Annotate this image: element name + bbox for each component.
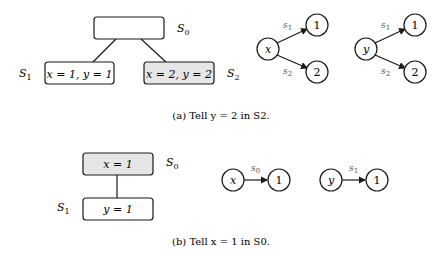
node-2-label: 2	[314, 66, 321, 79]
edge-label-s1: s1	[349, 163, 358, 175]
figure-a-graph-x: x 1 2 s1 s2	[257, 14, 328, 83]
space-label-s1: S1	[57, 201, 70, 216]
tree-edge	[93, 39, 116, 62]
tree-right-label: x = 2, y = 2	[146, 68, 212, 81]
figure-b-tree: x = 1 y = 1 S0 S1	[57, 153, 179, 220]
edge-label-s2: s2	[283, 66, 292, 78]
edge-label-s1: s1	[283, 20, 292, 32]
space-label-s0: S0	[166, 156, 179, 171]
edge-label-s0: s0	[251, 163, 260, 175]
tree-left-label: x = 1, y = 1	[47, 68, 113, 81]
tree-root-label: x = 1	[103, 158, 132, 171]
node-x-label: x	[230, 174, 237, 187]
tree-child-label: y = 1	[102, 203, 132, 216]
node-y-label: y	[327, 174, 335, 187]
figure-a-tree: x = 1, y = 1 x = 2, y = 2 S0 S1 S2	[19, 17, 240, 84]
node-1-label: 1	[374, 174, 381, 187]
figure-a-graph-y: y 1 2 s1 s2	[355, 14, 426, 83]
figure-b-graph-y: y 1 s1	[320, 163, 388, 191]
space-label-s1: S1	[19, 67, 32, 82]
node-1-label: 1	[314, 19, 321, 32]
space-label-s2: S2	[227, 67, 240, 82]
node-1-label: 1	[412, 19, 419, 32]
node-2-label: 2	[412, 66, 419, 79]
node-1-label: 1	[276, 174, 283, 187]
tree-root-box	[94, 17, 164, 39]
edge-label-s1: s1	[381, 20, 390, 32]
figure-b-graph-x: x 1 s0	[222, 163, 290, 191]
space-label-s0: S0	[177, 22, 190, 37]
caption-a: (a) Tell y = 2 in S2.	[172, 110, 269, 121]
edge-label-s2: s2	[381, 66, 390, 78]
diagram-canvas: x = 1, y = 1 x = 2, y = 2 S0 S1 S2 x 1 2…	[0, 0, 442, 256]
tree-edge	[141, 39, 166, 62]
caption-b: (b) Tell x = 1 in S0.	[172, 236, 270, 247]
node-y-label: y	[362, 43, 370, 56]
node-x-label: x	[265, 43, 272, 56]
